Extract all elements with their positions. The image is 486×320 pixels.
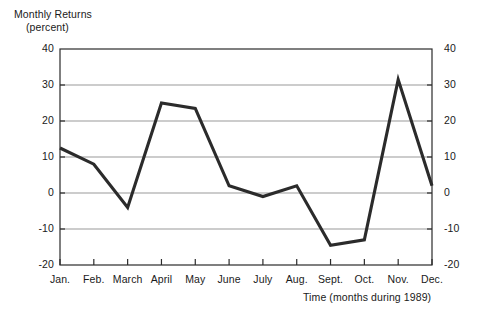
y-axis-right-tick-label: 20	[444, 114, 474, 126]
data-series-line	[60, 80, 432, 246]
plot-area	[0, 0, 486, 320]
y-axis-left-tick-label: -20	[28, 258, 54, 270]
y-axis-left-tick-label: 40	[28, 42, 54, 54]
y-axis-left-tick-label: 20	[28, 114, 54, 126]
y-axis-right-tick-label: 10	[444, 150, 474, 162]
y-axis-right-tick-label: -20	[444, 258, 474, 270]
y-axis-right-tick-label: -10	[444, 222, 474, 234]
x-axis-tick-label-dec: Dec.	[410, 273, 454, 285]
y-axis-right-tick-label: 0	[444, 186, 474, 198]
y-axis-left-tick-label: 30	[28, 78, 54, 90]
y-axis-left-tick-label: 0	[28, 186, 54, 198]
monthly-returns-line-chart: Monthly Returns (percent) Time (months d…	[0, 0, 486, 320]
y-axis-left-tick-label: 10	[28, 150, 54, 162]
y-axis-right-tick-label: 30	[444, 78, 474, 90]
y-axis-right-tick-label: 40	[444, 42, 474, 54]
y-axis-left-tick-label: -10	[28, 222, 54, 234]
